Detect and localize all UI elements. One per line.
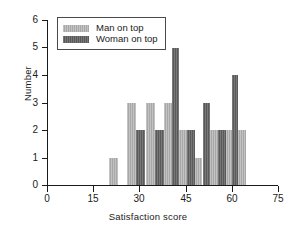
x-tick-label-45: 45 (174, 194, 198, 204)
bar (218, 130, 226, 185)
histogram-chart: 0123456 01530456075 Number Satisfaction … (0, 0, 296, 230)
x-tick-label-75: 75 (266, 194, 290, 204)
y-axis-label: Number (22, 39, 33, 129)
x-tick-label-30: 30 (127, 194, 151, 204)
y-tick-label-6: 6 (18, 15, 38, 25)
x-tick-45 (186, 186, 187, 192)
bar (155, 130, 164, 185)
y-tick-label-1: 1 (18, 153, 38, 163)
y-tick-label-0: 0 (18, 180, 38, 190)
chart-legend: Man on top Woman on top (57, 17, 166, 50)
bar (109, 158, 118, 186)
x-tick-label-15: 15 (81, 194, 105, 204)
x-axis-label: Satisfaction score (0, 211, 296, 222)
legend-swatch-man (63, 25, 89, 32)
x-axis-line (47, 185, 278, 186)
bar (164, 103, 172, 186)
legend-label-man: Man on top (96, 23, 144, 33)
x-tick-75 (278, 186, 279, 192)
bar (203, 103, 211, 186)
bar (172, 48, 180, 186)
bar (127, 103, 136, 186)
x-tick-30 (139, 186, 140, 192)
bar (238, 130, 246, 185)
bar (179, 130, 187, 185)
x-tick-label-0: 0 (35, 194, 59, 204)
legend-label-woman: Woman on top (96, 34, 158, 44)
bar (187, 130, 195, 185)
bar (210, 130, 218, 185)
bar (195, 158, 203, 186)
bar (136, 130, 145, 185)
legend-item-man: Man on top (63, 23, 158, 33)
bar (146, 103, 155, 186)
legend-item-woman: Woman on top (63, 34, 158, 44)
legend-swatch-woman (63, 36, 89, 43)
x-tick-15 (93, 186, 94, 192)
x-tick-60 (232, 186, 233, 192)
x-tick-0 (47, 186, 48, 192)
x-tick-label-60: 60 (220, 194, 244, 204)
